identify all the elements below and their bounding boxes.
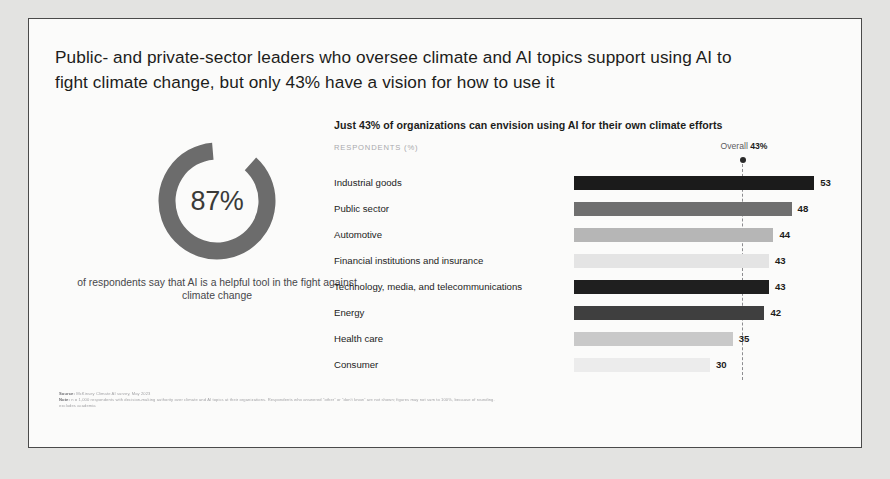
bar	[574, 202, 792, 216]
bar-track: 53	[574, 174, 849, 193]
footnote-note-label: Note:	[59, 397, 70, 402]
footnote-note-cont: excludes academia	[59, 403, 829, 409]
bar-track: 30	[574, 356, 849, 375]
bar-value-label: 42	[770, 307, 781, 318]
donut-chart: 87%	[157, 141, 277, 261]
bar-track: 44	[574, 226, 849, 245]
bar-value-label: 43	[775, 255, 786, 266]
bar-value-label: 30	[716, 359, 727, 370]
bar	[574, 176, 814, 190]
donut-panel: 87% of respondents say that AI is a help…	[59, 124, 329, 374]
bar	[574, 280, 769, 294]
bar-category-label: Energy	[334, 307, 364, 318]
bar-category-label: Financial institutions and insurance	[334, 255, 483, 266]
bar-row: Health care35	[334, 327, 849, 353]
bar-category-label: Industrial goods	[334, 177, 402, 188]
footnote-source-text: McKinsey Climate AI survey, May 2023	[76, 391, 150, 396]
bar-row: Industrial goods53	[334, 171, 849, 197]
footnotes: Source: McKinsey Climate AI survey, May …	[59, 391, 829, 410]
bar-chart-panel: Just 43% of organizations can envision u…	[334, 119, 849, 419]
bar-category-label: Technology, media, and telecommunication…	[334, 281, 522, 292]
donut-value-label: 87%	[157, 141, 277, 261]
bar	[574, 306, 764, 320]
bar-track: 48	[574, 200, 849, 219]
bar-category-label: Public sector	[334, 203, 389, 214]
axis-label-respondents: RESPONDENTS (%)	[334, 143, 418, 152]
bar-row: Automotive44	[334, 223, 849, 249]
donut-caption: of respondents say that AI is a helpful …	[77, 276, 357, 303]
overall-value: 43%	[750, 141, 767, 151]
bar	[574, 228, 773, 242]
chart-title: Just 43% of organizations can envision u…	[334, 119, 804, 131]
slide-sheet: Public- and private-sector leaders who o…	[28, 18, 862, 448]
bar-row: Public sector48	[334, 197, 849, 223]
bar-value-label: 43	[775, 281, 786, 292]
bar-value-label: 35	[739, 333, 750, 344]
bar-track: 35	[574, 330, 849, 349]
bar-track: 42	[574, 304, 849, 323]
bar-value-label: 44	[779, 229, 790, 240]
bar-rows: Industrial goods53Public sector48Automot…	[334, 171, 849, 379]
bar-row: Energy42	[334, 301, 849, 327]
bar-category-label: Consumer	[334, 359, 378, 370]
bar-track: 43	[574, 252, 849, 271]
overall-reference-label: Overall 43%	[689, 141, 799, 151]
bar-row: Consumer30	[334, 353, 849, 379]
page-title: Public- and private-sector leaders who o…	[55, 45, 755, 95]
scanned-page: Public- and private-sector leaders who o…	[0, 0, 890, 479]
bar	[574, 332, 733, 346]
footnote-note-text: n = 1,000 respondents with decision-maki…	[71, 397, 494, 402]
bar-row: Technology, media, and telecommunication…	[334, 275, 849, 301]
overall-prefix: Overall	[721, 141, 748, 151]
bar-value-label: 53	[820, 177, 831, 188]
bar-track: 43	[574, 278, 849, 297]
bar-category-label: Health care	[334, 333, 383, 344]
bar-row: Financial institutions and insurance43	[334, 249, 849, 275]
bar-category-label: Automotive	[334, 229, 382, 240]
bar	[574, 254, 769, 268]
footnote-source-label: Source:	[59, 391, 75, 396]
bar-value-label: 48	[798, 203, 809, 214]
overall-marker-dot	[740, 157, 746, 163]
bar	[574, 358, 710, 372]
